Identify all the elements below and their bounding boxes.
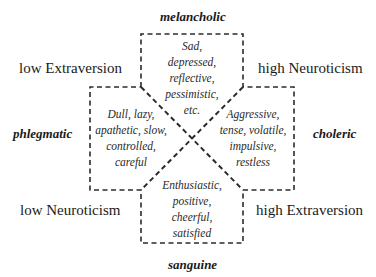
trait-line: Dull, lazy,	[90, 106, 172, 122]
axis-high-neuroticism: high Neuroticism	[258, 60, 363, 77]
trait-line: tense, volatile,	[212, 122, 294, 138]
trait-line: careful	[90, 154, 172, 170]
temperament-sanguine: sanguine	[168, 257, 217, 273]
temperament-choleric: choleric	[313, 126, 356, 142]
trait-line: depressed,	[141, 54, 243, 70]
trait-line: Enthusiastic,	[141, 177, 243, 193]
trait-line: pessimistic,	[141, 86, 243, 102]
trait-line: apathetic, slow,	[90, 122, 172, 138]
traits-sanguine: Enthusiastic, positive, cheerful, satisf…	[141, 177, 243, 241]
traits-phlegmatic: Dull, lazy, apathetic, slow, controlled,…	[90, 106, 172, 170]
trait-line: Aggressive,	[212, 106, 294, 122]
temperament-melancholic: melancholic	[160, 9, 226, 25]
temperament-phlegmatic: phlegmatic	[13, 126, 72, 142]
trait-line: reflective,	[141, 70, 243, 86]
trait-line: impulsive,	[212, 138, 294, 154]
trait-line: cheerful,	[141, 209, 243, 225]
trait-line: satisfied	[141, 225, 243, 241]
trait-line: positive,	[141, 193, 243, 209]
trait-line: Sad,	[141, 38, 243, 54]
trait-line: restless	[212, 154, 294, 170]
trait-line: controlled,	[90, 138, 172, 154]
axis-low-extraversion: low Extraversion	[19, 60, 122, 77]
axis-high-extraversion: high Extraversion	[256, 202, 363, 219]
traits-choleric: Aggressive, tense, volatile, impulsive, …	[212, 106, 294, 170]
axis-low-neuroticism: low Neuroticism	[20, 202, 120, 219]
